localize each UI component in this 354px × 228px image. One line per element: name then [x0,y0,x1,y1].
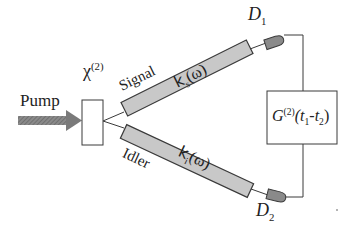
nonlinear-crystal [82,100,103,145]
d-symbol: D [256,200,269,220]
pump-arrow [18,110,82,131]
d-subscript: 1 [261,15,266,27]
branch-lines [103,112,124,128]
detector-2-label: D2 [256,200,274,221]
t2: -t [309,107,319,124]
chi-order: (2) [91,60,104,72]
speck [336,209,338,211]
crystal-label: χ(2) [83,61,104,82]
close-paren: ) [324,107,329,124]
d-symbol: D [248,4,261,24]
d-subscript: 2 [269,211,274,223]
g-symbol: G [272,107,284,124]
pump-label: Pump [20,91,60,111]
chi-symbol: χ [83,61,91,81]
detector-1-label: D1 [248,4,266,25]
t1: (t [295,107,305,124]
g-order: (2) [284,106,295,117]
detector-1 [250,34,285,49]
correlator-label: G(2)(t1-t2) [272,107,329,125]
